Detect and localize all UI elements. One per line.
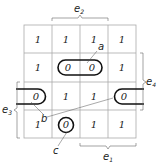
cell-r0c1: 1	[63, 34, 69, 45]
cell-r1c1: 0	[65, 62, 72, 73]
brace-e3	[14, 82, 20, 138]
brace-e2	[52, 15, 108, 21]
cell-r2c2: 1	[91, 91, 97, 102]
brace-e1	[80, 143, 136, 149]
loop-b-right	[115, 89, 144, 104]
label-b: b	[41, 113, 47, 124]
cell-r0c0: 1	[35, 34, 41, 45]
cell-r2c3: 0	[121, 91, 128, 102]
cell-r2c1: 1	[63, 91, 69, 102]
leader-lines	[31, 51, 113, 146]
cell-r3c2: 1	[91, 119, 97, 130]
label-c: c	[53, 145, 59, 156]
cell-r3c3: 1	[119, 119, 125, 130]
label-e2: e2	[74, 3, 84, 15]
karnaugh-map: 1 1 1 1 1 0 0 1 0 1 1 0 1 0 1 1 a b c	[0, 0, 163, 165]
label-e3: e3	[2, 104, 12, 116]
loop-b-left	[16, 89, 46, 104]
cell-r2c0: 0	[33, 91, 40, 102]
cell-r1c2: 0	[89, 62, 96, 73]
label-a: a	[98, 41, 104, 52]
label-e4: e4	[146, 76, 156, 88]
cell-r0c3: 1	[119, 34, 125, 45]
cell-r0c2: 1	[91, 34, 97, 45]
label-e1: e1	[103, 151, 113, 163]
cell-r1c0: 1	[35, 62, 41, 73]
cell-r1c3: 1	[119, 62, 125, 73]
cell-r3c1: 0	[63, 119, 70, 130]
